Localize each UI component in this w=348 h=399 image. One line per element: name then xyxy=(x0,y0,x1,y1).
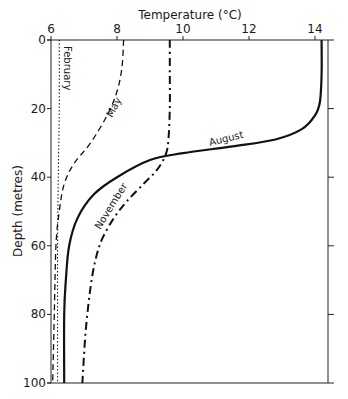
y-axis-ticks: 020406080100 xyxy=(23,33,51,390)
label-may: May xyxy=(104,95,123,118)
x-tick-label: 10 xyxy=(175,22,190,36)
right-axis-ticks xyxy=(328,109,334,315)
x-axis-ticks: 68101214 xyxy=(47,22,322,40)
x-axis-title: Temperature (°C) xyxy=(137,8,242,22)
y-tick-label: 60 xyxy=(31,239,46,253)
x-tick-label: 6 xyxy=(47,22,55,36)
y-tick-label: 20 xyxy=(31,102,46,116)
series-february xyxy=(58,40,60,383)
y-tick-label: 80 xyxy=(31,307,46,321)
x-tick-label: 14 xyxy=(307,22,322,36)
series-november xyxy=(82,40,170,383)
y-axis-title: Depth (metres) xyxy=(11,165,25,257)
y-tick-label: 100 xyxy=(23,376,46,390)
temperature-depth-chart: Temperature (°C) 68101214 020406080100 D… xyxy=(0,0,348,399)
y-tick-label: 0 xyxy=(38,33,46,47)
x-tick-label: 12 xyxy=(241,22,256,36)
x-tick-label: 8 xyxy=(113,22,121,36)
label-february: February xyxy=(62,46,73,90)
y-tick-label: 40 xyxy=(31,170,46,184)
series-lines xyxy=(53,40,322,383)
